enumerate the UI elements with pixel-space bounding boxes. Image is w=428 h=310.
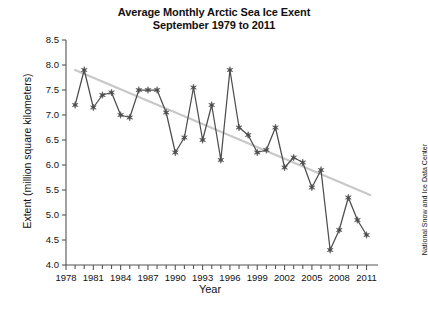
svg-text:5.0: 5.0 xyxy=(46,209,59,220)
svg-text:2002: 2002 xyxy=(274,272,295,283)
trendline xyxy=(75,70,370,195)
svg-text:5.5: 5.5 xyxy=(46,184,59,195)
svg-text:2005: 2005 xyxy=(301,272,322,283)
svg-text:6.5: 6.5 xyxy=(46,134,59,145)
svg-text:1984: 1984 xyxy=(110,272,131,283)
svg-text:8.0: 8.0 xyxy=(46,59,59,70)
svg-text:1999: 1999 xyxy=(247,272,268,283)
y-axis-label: Extent (million square kilometers) xyxy=(21,41,33,261)
plot-area: 4.04.55.05.56.06.57.07.58.08.5 197819811… xyxy=(0,0,428,310)
svg-text:1981: 1981 xyxy=(83,272,104,283)
x-axis-ticks: 1978198119841987199019931996199920022005… xyxy=(55,265,376,283)
svg-text:1990: 1990 xyxy=(165,272,186,283)
svg-text:2011: 2011 xyxy=(356,272,376,283)
source-credit: National Snow and Ice Data Center xyxy=(421,120,428,280)
svg-text:7.0: 7.0 xyxy=(46,109,59,120)
svg-text:1987: 1987 xyxy=(137,272,158,283)
svg-text:1996: 1996 xyxy=(219,272,240,283)
chart-figure: Average Monthly Arctic Sea Ice Exent Sep… xyxy=(0,0,428,310)
y-axis-ticks: 4.04.55.05.56.06.57.07.58.08.5 xyxy=(46,34,66,270)
svg-text:4.5: 4.5 xyxy=(46,234,59,245)
svg-text:1978: 1978 xyxy=(55,272,76,283)
chart-title-line-2: September 1979 to 2011 xyxy=(0,19,428,32)
svg-text:2008: 2008 xyxy=(329,272,350,283)
chart-title: Average Monthly Arctic Sea Ice Exent Sep… xyxy=(0,6,428,32)
svg-text:8.5: 8.5 xyxy=(46,34,59,45)
svg-text:4.0: 4.0 xyxy=(46,259,59,270)
data-point-markers xyxy=(72,67,369,254)
svg-text:6.0: 6.0 xyxy=(46,159,59,170)
chart-title-line-1: Average Monthly Arctic Sea Ice Exent xyxy=(0,6,428,19)
x-axis-label: Year xyxy=(0,283,420,295)
svg-text:1993: 1993 xyxy=(192,272,213,283)
svg-text:7.5: 7.5 xyxy=(46,84,59,95)
